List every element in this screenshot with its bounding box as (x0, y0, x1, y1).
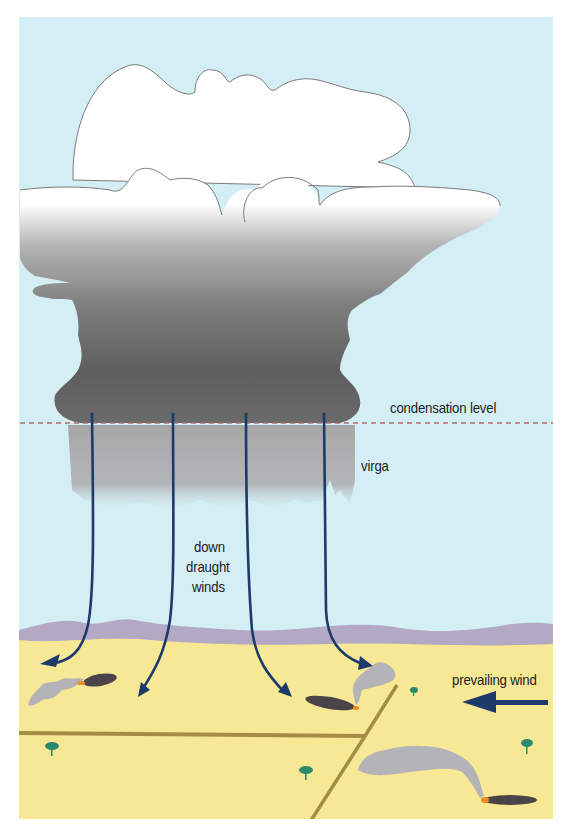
down-draught-label-line1: down (194, 537, 225, 557)
diagram-illustration (0, 0, 572, 836)
prevailing-wind-label: prevailing wind (452, 670, 537, 690)
virga-label: virga (361, 456, 389, 476)
ground (19, 639, 553, 819)
thunderstorm-diagram: condensation level virga down draught wi… (0, 0, 572, 836)
condensation-level-label: condensation level (390, 398, 496, 418)
down-draught-label-line3: winds (192, 577, 225, 597)
down-draught-label-line2: draught (186, 557, 230, 577)
virga-shading (68, 425, 355, 510)
